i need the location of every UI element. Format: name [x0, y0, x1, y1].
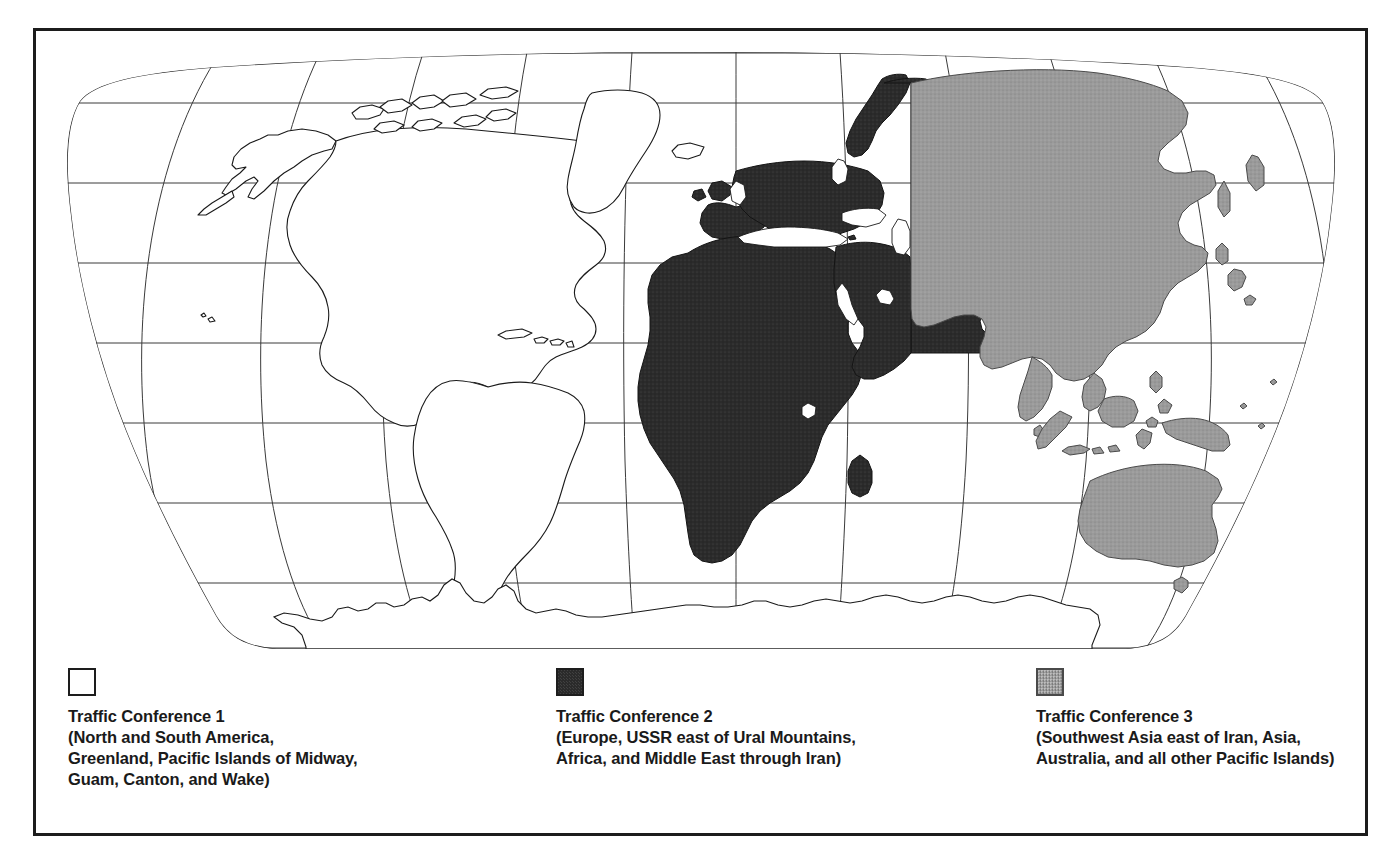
legend-desc-line: (Southwest Asia east of Iran, Asia, — [1036, 727, 1366, 748]
legend-desc-line: (Europe, USSR east of Ural Mountains, — [556, 727, 886, 748]
figure-page: Traffic Conference 1 (North and South Am… — [0, 0, 1397, 859]
map-body — [36, 31, 1365, 651]
legend-description-conference-1: (North and South America, Greenland, Pac… — [68, 727, 368, 790]
legend-item-conference-1: Traffic Conference 1 (North and South Am… — [68, 668, 368, 790]
map-legend: Traffic Conference 1 (North and South Am… — [36, 668, 1365, 828]
legend-title-conference-3: Traffic Conference 3 — [1036, 706, 1366, 727]
legend-swatch-conference-2 — [556, 668, 584, 696]
legend-description-conference-3: (Southwest Asia east of Iran, Asia, Aust… — [1036, 727, 1366, 769]
legend-item-conference-2: Traffic Conference 2 (Europe, USSR east … — [556, 668, 886, 769]
legend-desc-line: (North and South America, — [68, 727, 368, 748]
legend-title-conference-1: Traffic Conference 1 — [68, 706, 368, 727]
legend-title-conference-2: Traffic Conference 2 — [556, 706, 886, 727]
legend-desc-line: Greenland, Pacific Islands of Midway, — [68, 748, 368, 769]
legend-desc-line: Australia, and all other Pacific Islands… — [1036, 748, 1366, 769]
legend-swatch-conference-3 — [1036, 668, 1064, 696]
map-svg — [36, 31, 1365, 651]
legend-desc-line: Guam, Canton, and Wake) — [68, 769, 368, 790]
legend-item-conference-3: Traffic Conference 3 (Southwest Asia eas… — [1036, 668, 1366, 769]
legend-desc-line: Africa, and Middle East through Iran) — [556, 748, 886, 769]
world-map — [36, 31, 1365, 651]
legend-swatch-conference-1 — [68, 668, 96, 696]
legend-description-conference-2: (Europe, USSR east of Ural Mountains, Af… — [556, 727, 886, 769]
